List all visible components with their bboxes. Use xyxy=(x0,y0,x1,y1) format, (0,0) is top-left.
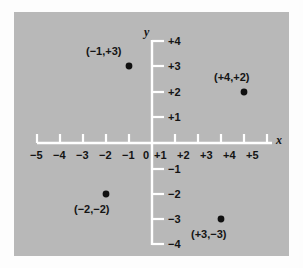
x-tick-label--4: −4 xyxy=(53,150,66,161)
x-tick-label--2: −2 xyxy=(99,150,112,161)
data-point-3 xyxy=(218,216,225,223)
y-axis-label: y xyxy=(144,26,149,38)
data-point-label-2: (−2,−2) xyxy=(74,204,109,215)
y-tick-label--2: −2 xyxy=(168,189,181,200)
data-point-0 xyxy=(126,63,133,70)
data-point-label-3: (+3,−3) xyxy=(191,229,226,240)
coordinate-plane-figure: −5 −4 −3 −2 −1 0 +1 +2 +3 +4 +5 +4 +3 +2… xyxy=(0,0,303,268)
y-tick-label-3: +3 xyxy=(168,61,181,72)
x-tick-label-2: +2 xyxy=(177,150,190,161)
y-tick-label--1: −1 xyxy=(168,164,181,175)
x-tick-label-0: 0 xyxy=(143,150,149,161)
data-point-2 xyxy=(103,191,110,198)
data-point-1 xyxy=(241,89,248,96)
x-tick-label--3: −3 xyxy=(76,150,89,161)
x-tick-label-5: +5 xyxy=(246,150,259,161)
y-tick-label-4: +4 xyxy=(168,36,181,47)
x-tick-label-1: +1 xyxy=(154,150,167,161)
x-tick-label--5: −5 xyxy=(30,150,43,161)
y-tick-label--4: −4 xyxy=(168,239,181,250)
x-axis-label: x xyxy=(276,134,282,146)
data-point-label-0: (−1,+3) xyxy=(86,46,121,57)
plot-panel: −5 −4 −3 −2 −1 0 +1 +2 +3 +4 +5 +4 +3 +2… xyxy=(14,12,289,256)
axes-and-points-svg xyxy=(14,12,289,256)
data-point-label-1: (+4,+2) xyxy=(214,72,249,83)
x-tick-label--1: −1 xyxy=(122,150,135,161)
y-tick-label-2: +2 xyxy=(168,87,181,98)
y-tick-label-1: +1 xyxy=(168,112,181,123)
y-tick-label--3: −3 xyxy=(168,214,181,225)
x-tick-label-3: +3 xyxy=(200,150,213,161)
x-tick-label-4: +4 xyxy=(223,150,236,161)
